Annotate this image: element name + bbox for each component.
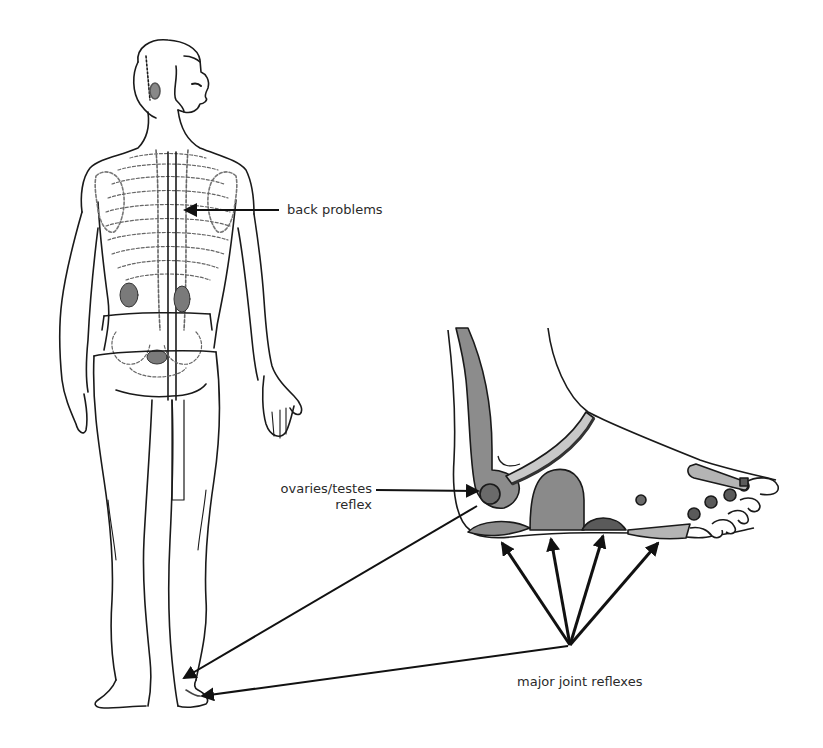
joint-arrow-3 xyxy=(570,536,603,645)
left-arm xyxy=(60,212,87,433)
dark-sole-zone xyxy=(582,518,626,530)
arrows xyxy=(184,210,658,696)
right-arm xyxy=(254,214,302,415)
head xyxy=(134,40,209,118)
right-hand xyxy=(263,376,294,436)
left-leg-outer xyxy=(94,356,116,680)
right-kidney xyxy=(174,286,190,312)
body-figure xyxy=(60,40,302,708)
ovaries-testes-label-line1: ovaries/testes xyxy=(268,481,372,496)
left-kidney xyxy=(120,283,138,307)
diagram-canvas xyxy=(0,0,823,748)
left-foot xyxy=(95,680,146,708)
central-zone xyxy=(530,469,584,530)
ovaries-testes-reflex-dot xyxy=(480,484,500,504)
back-problems-label: back problems xyxy=(287,202,383,217)
bladder xyxy=(147,350,167,364)
ovaries-arrow xyxy=(376,490,478,491)
left-leg-inner xyxy=(143,400,152,706)
ball-sole-zone xyxy=(628,524,690,539)
big-toe-bar xyxy=(688,464,748,490)
heel-to-body-arrow xyxy=(184,506,477,678)
foot-figure xyxy=(448,328,778,539)
heel-sole-zone xyxy=(468,522,530,536)
right-leg-outer xyxy=(196,352,220,680)
joint-arrow-4 xyxy=(570,543,658,645)
reflexology-diagram: back problems ovaries/testes reflex majo… xyxy=(0,0,823,748)
major-joint-reflexes-label: major joint reflexes xyxy=(517,674,642,689)
right-leg-inner xyxy=(169,400,178,706)
neck-shoulders xyxy=(81,112,148,212)
ovaries-testes-label-line2: reflex xyxy=(268,497,372,512)
joint-to-body-arrow xyxy=(202,646,568,696)
